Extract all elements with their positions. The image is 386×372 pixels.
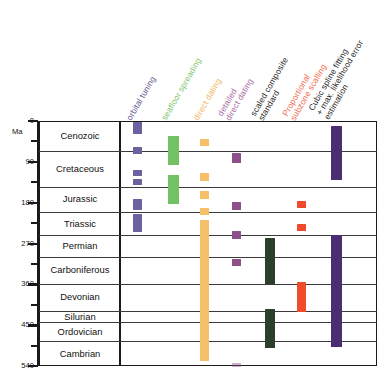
data-mark [297, 224, 306, 231]
data-mark [168, 136, 179, 165]
period-boundary-line [39, 187, 377, 188]
data-mark [297, 282, 306, 311]
period-label-permian: Permian [41, 241, 119, 251]
column-headers: orbital tuningseafloor spreadingdirect d… [0, 0, 386, 122]
data-mark [265, 309, 275, 348]
data-mark [133, 179, 142, 185]
data-mark [200, 173, 209, 181]
period-label-devonian: Devonian [41, 292, 119, 302]
period-label-cretaceous: Cretaceous [41, 164, 119, 174]
y-tick-label: 540 [8, 362, 34, 370]
label-column-divider [119, 121, 121, 366]
data-mark [200, 139, 209, 146]
y-tick-label: 90 [8, 158, 34, 166]
period-label-ordovician: Ordovician [41, 327, 119, 337]
geologic-timescale-methods-chart: orbital tuningseafloor spreadingdirect d… [0, 0, 386, 372]
data-mark [331, 126, 342, 180]
period-label-jurassic: Jurassic [41, 194, 119, 204]
y-tick-minor [31, 263, 38, 265]
y-tick-label: 450 [8, 321, 34, 329]
data-mark [232, 259, 241, 266]
data-mark [200, 208, 209, 215]
column-header-line: orbital tuning [125, 75, 158, 122]
period-boundary-line [39, 151, 377, 152]
data-mark [297, 201, 306, 208]
period-label-carboniferous: Carboniferous [41, 265, 119, 275]
period-label-cenozoic: Cenozoic [41, 131, 119, 141]
data-mark [133, 214, 142, 232]
column-header-1: orbital tuning [125, 75, 158, 122]
data-mark [133, 199, 142, 211]
y-tick-label: 270 [8, 240, 34, 248]
data-mark [265, 238, 275, 284]
y-tick-minor [31, 222, 38, 224]
y-tick-label: 0 [8, 117, 34, 125]
data-mark [232, 363, 241, 367]
data-mark [331, 235, 342, 347]
y-tick-minor [31, 345, 38, 347]
period-label-cambrian: Cambrian [41, 349, 119, 359]
period-label-silurian: Silurian [41, 312, 119, 322]
data-mark [200, 220, 209, 361]
data-mark [232, 202, 241, 210]
data-mark [133, 170, 142, 176]
y-tick-minor [31, 304, 38, 306]
y-tick-minor [31, 181, 38, 183]
y-tick-label: 360 [8, 280, 34, 288]
data-mark [200, 191, 209, 199]
period-label-triassic: Triassic [41, 219, 119, 229]
y-tick-label: 180 [8, 199, 34, 207]
data-mark [133, 122, 142, 134]
data-mark [133, 147, 142, 153]
y-tick-minor [31, 140, 38, 142]
data-mark [168, 175, 179, 203]
data-mark [232, 231, 241, 239]
y-axis-unit-label: Ma [12, 128, 23, 136]
data-mark [232, 153, 241, 163]
